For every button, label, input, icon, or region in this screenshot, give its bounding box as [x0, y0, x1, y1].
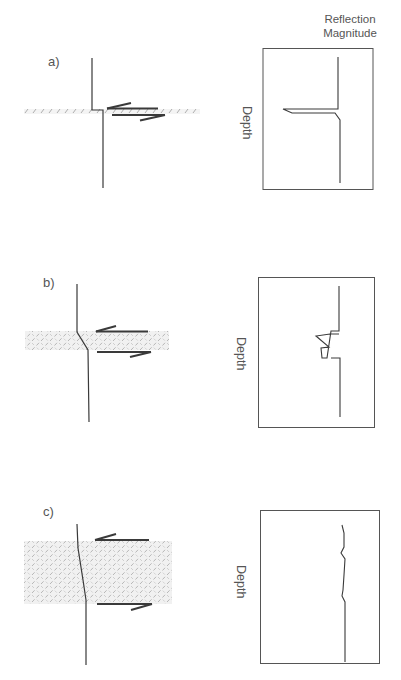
reflection-trace-a [283, 57, 340, 183]
depth-label-a: Depth [240, 106, 254, 139]
reflection-trace-c [341, 525, 345, 662]
reflection-trace-b-lower [331, 358, 340, 417]
fault-line-b [77, 284, 89, 422]
arrow-right-a [112, 115, 165, 121]
arrow-left-b [96, 326, 148, 332]
panel-b: b) Depth [25, 275, 375, 428]
arrow-left-a [107, 103, 158, 109]
arrow-right-b [97, 352, 151, 357]
panel-c: c) Depth [24, 504, 380, 665]
panel-b-label: b) [43, 275, 55, 290]
shear-zone-diagram: Reflection Magnitude a) Depth b) [0, 0, 401, 680]
arrow-left-c [95, 534, 149, 540]
depth-label-c: Depth [234, 565, 248, 598]
arrow-right-c [97, 604, 152, 610]
panel-a-label: a) [48, 54, 60, 69]
depth-label-b: Depth [234, 337, 248, 370]
reflection-plot-c-frame [261, 511, 380, 664]
shear-layer-a [24, 109, 200, 114]
reflection-plot-b-frame [259, 278, 375, 428]
reflection-trace-b-upper [316, 286, 339, 358]
panel-c-label: c) [43, 504, 54, 519]
column-title-line2: Magnitude [323, 27, 377, 39]
panel-a: a) Depth [24, 49, 373, 190]
shear-layer-c [24, 541, 172, 604]
fault-line-a [92, 58, 103, 188]
reflection-plot-a-frame [263, 49, 373, 190]
column-title-line1: Reflection [324, 13, 375, 25]
shear-layer-b [25, 331, 169, 350]
